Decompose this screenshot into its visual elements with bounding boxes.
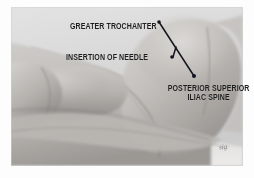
anatomy-illustration: [11, 7, 243, 166]
film-grain: [11, 7, 243, 166]
illustration-plate: [11, 7, 243, 166]
tip-greater-trochanter-icon: [157, 20, 161, 24]
tip-insertion-of-needle-icon: [170, 55, 174, 59]
figure-root: GREATER TROCHANTER INSERTION OF NEEDLE P…: [0, 0, 254, 178]
tip-posterior-superior-iliac-spine-icon: [192, 74, 196, 78]
